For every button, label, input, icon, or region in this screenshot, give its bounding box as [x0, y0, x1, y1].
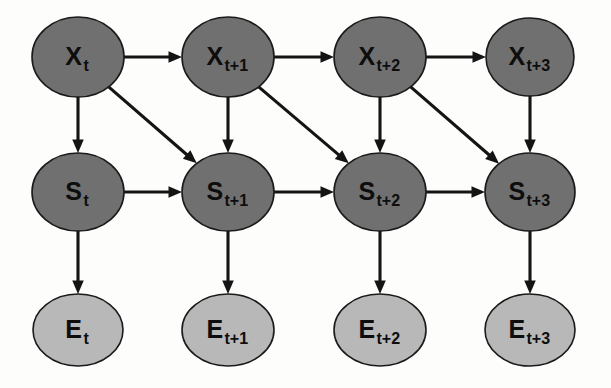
node-label-timestep: t+2 [376, 330, 400, 347]
edge-x_t-to-s_t [72, 97, 84, 153]
node-x_t2[interactable]: Xt+2 [334, 17, 426, 97]
edge-shaft [259, 87, 340, 156]
node-e_t3[interactable]: Et+3 [485, 294, 575, 366]
arrowhead-icon [321, 51, 335, 63]
edge-shaft [109, 87, 188, 156]
node-label-timestep: t+3 [526, 57, 550, 74]
node-label-timestep: t+2 [376, 57, 400, 74]
arrowhead-icon [472, 186, 486, 198]
edge-s_t2-to-e_t2 [374, 231, 386, 294]
edge-shaft [411, 87, 490, 156]
node-s_t2[interactable]: St+2 [334, 153, 426, 231]
edge-x_t3-to-s_t3 [524, 96, 536, 153]
edge-x_t-to-s_t1 [109, 87, 197, 164]
edge-s_t1-to-e_t1 [222, 231, 234, 294]
arrowhead-icon [524, 281, 536, 295]
edge-x_t-to-x_t1 [124, 51, 182, 63]
node-label-variable: S [508, 177, 525, 205]
node-label-variable: E [65, 315, 82, 343]
edge-s_t3-to-e_t3 [524, 231, 536, 294]
edge-x_t2-to-x_t3 [426, 51, 486, 63]
edge-x_t1-to-s_t1 [222, 97, 234, 153]
arrowhead-icon [524, 140, 536, 154]
arrowhead-icon [169, 186, 183, 198]
arrowhead-icon [222, 281, 234, 295]
node-label-variable: S [206, 177, 223, 205]
node-s_t3[interactable]: St+3 [485, 153, 575, 231]
node-label-timestep: t [84, 330, 90, 347]
node-label-timestep: t+1 [224, 330, 248, 347]
node-label-timestep: t+2 [376, 192, 400, 209]
node-x_t[interactable]: Xt [32, 17, 124, 97]
arrowhead-icon [374, 281, 386, 295]
node-e_t2[interactable]: Et+2 [334, 294, 426, 366]
node-label-variable: S [65, 177, 82, 205]
arrowhead-icon [72, 281, 84, 295]
edge-s_t2-to-s_t3 [426, 186, 485, 198]
node-label-variable: E [206, 315, 223, 343]
node-s_t[interactable]: St [32, 153, 124, 231]
node-label-variable: X [65, 42, 82, 70]
edges-layer [72, 51, 536, 294]
node-e_t1[interactable]: Et+1 [182, 294, 274, 366]
edge-x_t1-to-x_t2 [274, 51, 334, 63]
edge-x_t2-to-s_t2 [374, 97, 386, 153]
node-label-timestep: t [84, 57, 90, 74]
node-label-timestep: t [84, 192, 90, 209]
arrowhead-icon [222, 140, 234, 154]
arrowhead-icon [72, 140, 84, 154]
edge-x_t1-to-s_t2 [259, 87, 349, 164]
node-label-variable: X [508, 42, 525, 70]
node-label-timestep: t+1 [224, 57, 248, 74]
node-e_t[interactable]: Et [33, 294, 123, 366]
node-label-timestep: t+3 [526, 330, 550, 347]
node-label-variable: E [358, 315, 375, 343]
graph-canvas: XtXt+1Xt+2Xt+3StSt+1St+2St+3EtEt+1Et+2Et… [0, 0, 611, 388]
arrowhead-icon [169, 51, 183, 63]
node-label-variable: X [358, 42, 375, 70]
node-label-timestep: t+3 [526, 192, 550, 209]
node-x_t3[interactable]: Xt+3 [486, 18, 574, 96]
node-label-variable: E [508, 315, 525, 343]
node-x_t1[interactable]: Xt+1 [182, 17, 274, 97]
edge-s_t-to-e_t [72, 231, 84, 294]
edge-s_t1-to-s_t2 [274, 186, 334, 198]
edge-x_t2-to-s_t3 [411, 87, 499, 164]
node-label-variable: X [206, 42, 223, 70]
arrowhead-icon [473, 51, 487, 63]
node-s_t1[interactable]: St+1 [182, 153, 274, 231]
node-label-variable: S [358, 177, 375, 205]
arrowhead-icon [374, 140, 386, 154]
bayesian-network-diagram: XtXt+1Xt+2Xt+3StSt+1St+2St+3EtEt+1Et+2Et… [0, 0, 611, 388]
node-label-timestep: t+1 [224, 192, 248, 209]
edge-s_t-to-s_t1 [124, 186, 182, 198]
arrowhead-icon [321, 186, 335, 198]
